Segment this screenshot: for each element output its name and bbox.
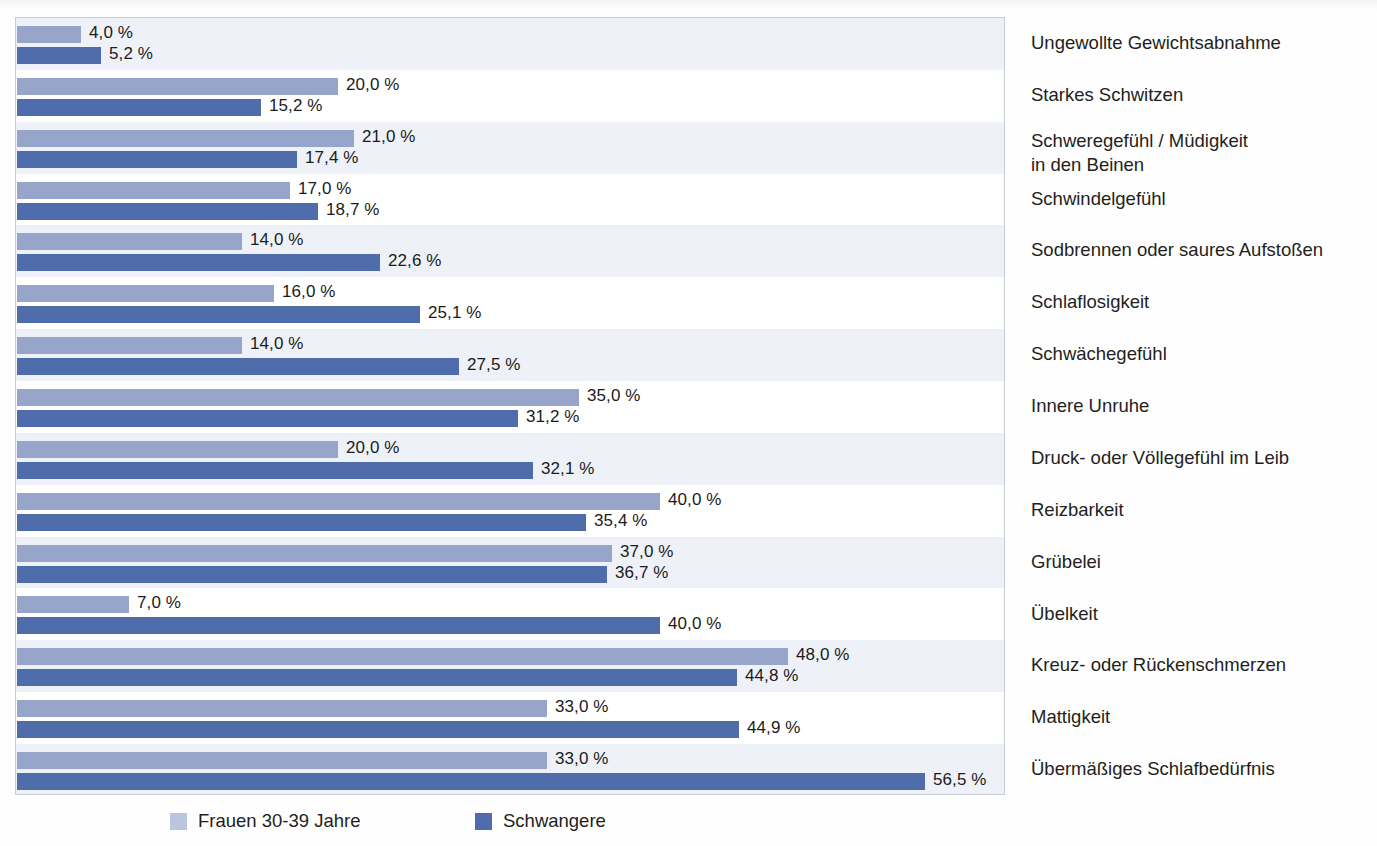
bar-row: 37,0 %36,7 % bbox=[16, 537, 1004, 589]
bar-value-label: 44,8 % bbox=[745, 666, 799, 686]
bar-schwangere bbox=[17, 462, 533, 479]
bar-value-label: 40,0 % bbox=[668, 490, 722, 510]
bar-frauen-30-39 bbox=[17, 752, 547, 769]
category-label: Schweregefühl / Müdigkeit in den Beinen bbox=[1031, 129, 1248, 177]
bar-schwangere bbox=[17, 773, 925, 790]
bar-row: 21,0 %17,4 % bbox=[16, 122, 1004, 174]
bar-value-label: 15,2 % bbox=[269, 96, 323, 116]
category-label-column: Ungewollte GewichtsabnahmeStarkes Schwit… bbox=[1031, 17, 1377, 795]
bar-row: 4,0 %5,2 % bbox=[16, 18, 1004, 70]
bar-group: 14,0 %27,5 % bbox=[16, 329, 1004, 381]
bar-row: 17,0 %18,7 % bbox=[16, 174, 1004, 226]
bar-group: 35,0 %31,2 % bbox=[16, 381, 1004, 433]
bar-value-label: 33,0 % bbox=[555, 697, 609, 717]
bar-schwangere bbox=[17, 306, 420, 323]
bar-value-label: 25,1 % bbox=[428, 303, 482, 323]
bar-value-label: 21,0 % bbox=[362, 127, 416, 147]
bar-frauen-30-39 bbox=[17, 130, 354, 147]
bar-group: 17,0 %18,7 % bbox=[16, 174, 1004, 226]
bar-frauen-30-39 bbox=[17, 389, 579, 406]
bar-frauen-30-39 bbox=[17, 182, 290, 199]
bar-group: 4,0 %5,2 % bbox=[16, 18, 1004, 70]
bar-frauen-30-39 bbox=[17, 285, 274, 302]
category-label: Innere Unruhe bbox=[1031, 394, 1149, 418]
bar-value-label: 35,0 % bbox=[587, 386, 641, 406]
bar-value-label: 36,7 % bbox=[615, 563, 669, 583]
bar-value-label: 32,1 % bbox=[541, 459, 595, 479]
bar-rows: 4,0 %5,2 %20,0 %15,2 %21,0 %17,4 %17,0 %… bbox=[16, 18, 1004, 794]
chart-legend: Frauen 30-39 Jahre Schwangere bbox=[15, 806, 1005, 840]
legend-item-schwangere: Schwangere bbox=[475, 810, 606, 832]
bar-schwangere bbox=[17, 721, 739, 738]
bar-value-label: 56,5 % bbox=[933, 770, 987, 790]
bar-schwangere bbox=[17, 410, 518, 427]
bar-row: 48,0 %44,8 % bbox=[16, 640, 1004, 692]
bar-value-label: 37,0 % bbox=[620, 542, 674, 562]
bar-schwangere bbox=[17, 47, 101, 64]
bar-frauen-30-39 bbox=[17, 596, 129, 613]
bar-row: 40,0 %35,4 % bbox=[16, 485, 1004, 537]
category-label: Mattigkeit bbox=[1031, 705, 1110, 729]
bar-value-label: 14,0 % bbox=[250, 334, 304, 354]
bar-value-label: 20,0 % bbox=[346, 438, 400, 458]
bar-value-label: 4,0 % bbox=[89, 23, 133, 43]
bar-row: 14,0 %27,5 % bbox=[16, 329, 1004, 381]
bar-schwangere bbox=[17, 99, 261, 116]
plot-area: 4,0 %5,2 %20,0 %15,2 %21,0 %17,4 %17,0 %… bbox=[15, 17, 1005, 795]
category-label: Grübelei bbox=[1031, 550, 1101, 574]
legend-swatch-light-icon bbox=[170, 813, 187, 830]
bar-schwangere bbox=[17, 617, 660, 634]
bar-schwangere bbox=[17, 669, 737, 686]
bar-frauen-30-39 bbox=[17, 493, 660, 510]
bar-schwangere bbox=[17, 151, 297, 168]
category-label: Reizbarkeit bbox=[1031, 498, 1124, 522]
bar-value-label: 31,2 % bbox=[526, 407, 580, 427]
bar-value-label: 5,2 % bbox=[109, 44, 153, 64]
legend-label-schwangere: Schwangere bbox=[503, 810, 606, 832]
bar-frauen-30-39 bbox=[17, 337, 242, 354]
bar-group: 20,0 %15,2 % bbox=[16, 70, 1004, 122]
bar-group: 14,0 %22,6 % bbox=[16, 225, 1004, 277]
bar-group: 37,0 %36,7 % bbox=[16, 537, 1004, 589]
bar-group: 20,0 %32,1 % bbox=[16, 433, 1004, 485]
bar-group: 16,0 %25,1 % bbox=[16, 277, 1004, 329]
bar-value-label: 40,0 % bbox=[668, 614, 722, 634]
bar-value-label: 18,7 % bbox=[326, 200, 380, 220]
bar-row: 7,0 %40,0 % bbox=[16, 588, 1004, 640]
bar-schwangere bbox=[17, 358, 459, 375]
bar-schwangere bbox=[17, 514, 586, 531]
chart-page: 4,0 %5,2 %20,0 %15,2 %21,0 %17,4 %17,0 %… bbox=[0, 0, 1377, 846]
bar-value-label: 16,0 % bbox=[282, 282, 336, 302]
bar-schwangere bbox=[17, 203, 318, 220]
bar-group: 33,0 %56,5 % bbox=[16, 744, 1004, 795]
bar-group: 7,0 %40,0 % bbox=[16, 588, 1004, 640]
bar-frauen-30-39 bbox=[17, 78, 338, 95]
bar-schwangere bbox=[17, 566, 607, 583]
bar-value-label: 17,0 % bbox=[298, 179, 352, 199]
bar-value-label: 35,4 % bbox=[594, 511, 648, 531]
bar-group: 21,0 %17,4 % bbox=[16, 122, 1004, 174]
category-label: Ungewollte Gewichtsabnahme bbox=[1031, 31, 1281, 55]
bar-row: 20,0 %32,1 % bbox=[16, 433, 1004, 485]
bar-value-label: 44,9 % bbox=[747, 718, 801, 738]
bar-row: 33,0 %44,9 % bbox=[16, 692, 1004, 744]
bar-value-label: 14,0 % bbox=[250, 230, 304, 250]
bar-group: 48,0 %44,8 % bbox=[16, 640, 1004, 692]
bar-group: 33,0 %44,9 % bbox=[16, 692, 1004, 744]
category-label: Sodbrennen oder saures Aufstoßen bbox=[1031, 238, 1323, 262]
bar-value-label: 22,6 % bbox=[388, 251, 442, 271]
category-label: Schlaflosigkeit bbox=[1031, 290, 1149, 314]
bar-row: 14,0 %22,6 % bbox=[16, 225, 1004, 277]
bar-frauen-30-39 bbox=[17, 545, 612, 562]
legend-label-frauen: Frauen 30-39 Jahre bbox=[198, 810, 361, 832]
category-label: Übelkeit bbox=[1031, 602, 1098, 626]
bar-frauen-30-39 bbox=[17, 441, 338, 458]
bar-frauen-30-39 bbox=[17, 233, 242, 250]
category-label: Kreuz- oder Rückenschmerzen bbox=[1031, 653, 1286, 677]
bar-value-label: 33,0 % bbox=[555, 749, 609, 769]
bar-frauen-30-39 bbox=[17, 648, 788, 665]
bar-row: 20,0 %15,2 % bbox=[16, 70, 1004, 122]
page-top-artifact bbox=[0, 0, 1377, 12]
bar-row: 16,0 %25,1 % bbox=[16, 277, 1004, 329]
legend-item-frauen: Frauen 30-39 Jahre bbox=[170, 810, 361, 832]
